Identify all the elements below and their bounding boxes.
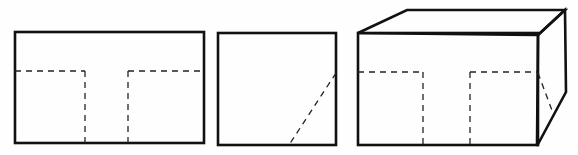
isometric-top-face [358,10,565,35]
side-view-hidden-lines [289,73,336,145]
hidden-line [289,73,336,145]
isometric-side-face [537,10,566,146]
front-view-hidden-lines [15,71,204,143]
side-view [218,33,336,145]
diagram-canvas [0,0,578,155]
front-view [15,32,204,143]
front-view-outline [15,32,204,143]
side-view-outline [218,33,336,145]
isometric-hidden-lines [358,72,553,145]
hidden-line [538,73,553,113]
isometric-view [358,10,566,146]
isometric-front-face [358,33,538,145]
projection-diagram [0,0,578,155]
